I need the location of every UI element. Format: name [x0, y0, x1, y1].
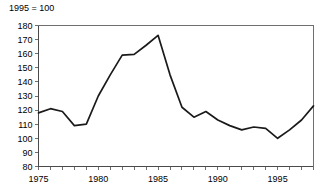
- y-tick-label: 180: [17, 21, 32, 31]
- y-tick-label: 140: [17, 77, 32, 87]
- plot-frame: [39, 26, 314, 167]
- y-tick-label: 120: [17, 105, 32, 115]
- data-series: [39, 35, 314, 138]
- y-tick-label: 80: [22, 162, 32, 172]
- y-axis: 8090100110120130140150160170180: [17, 21, 38, 172]
- x-tick-label: 1995: [268, 174, 288, 184]
- y-tick-label: 110: [18, 120, 32, 130]
- line-chart-plot: 8090100110120130140150160170180 19751980…: [0, 0, 326, 195]
- series-line-index: [39, 35, 314, 138]
- x-tick-label: 1980: [88, 174, 108, 184]
- chart-container: 1995 = 100 80901001101201301401501601701…: [0, 0, 326, 195]
- x-axis: 19751980198519901995: [28, 167, 313, 184]
- y-tick-label: 170: [17, 35, 32, 45]
- y-tick-label: 130: [17, 91, 32, 101]
- y-tick-label: 160: [17, 49, 32, 59]
- y-tick-label: 100: [17, 134, 32, 144]
- y-tick-label: 150: [17, 63, 32, 73]
- x-tick-label: 1985: [148, 174, 168, 184]
- x-tick-label: 1990: [208, 174, 228, 184]
- x-tick-label: 1975: [28, 174, 48, 184]
- y-tick-label: 90: [22, 148, 32, 158]
